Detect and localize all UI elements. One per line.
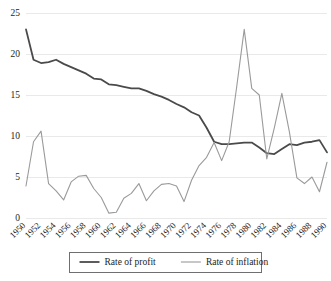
plot-canvas: 0510152025 19501952195419561958196019621… bbox=[0, 0, 331, 281]
data-series-group bbox=[26, 29, 327, 213]
y-tick-label: 5 bbox=[15, 172, 20, 182]
series-line-rate-of-inflation bbox=[26, 29, 327, 213]
legend-label: Rate of profit bbox=[105, 257, 157, 267]
y-tick-label: 20 bbox=[11, 49, 21, 59]
series-line-rate-of-profit bbox=[26, 29, 327, 154]
y-tick-label: 25 bbox=[11, 8, 21, 18]
x-axis-tick-labels: 1950195219541956195819601962196419661968… bbox=[8, 220, 329, 240]
line-chart-figure: 0510152025 19501952195419561958196019621… bbox=[0, 0, 331, 281]
y-axis-tick-labels: 0510152025 bbox=[11, 8, 21, 223]
x-tick-label: 1990 bbox=[309, 220, 329, 240]
chart-legend: Rate of profitRate of inflation bbox=[70, 252, 269, 272]
y-tick-label: 10 bbox=[11, 131, 21, 141]
y-tick-label: 15 bbox=[11, 90, 21, 100]
legend-label: Rate of inflation bbox=[206, 257, 269, 267]
